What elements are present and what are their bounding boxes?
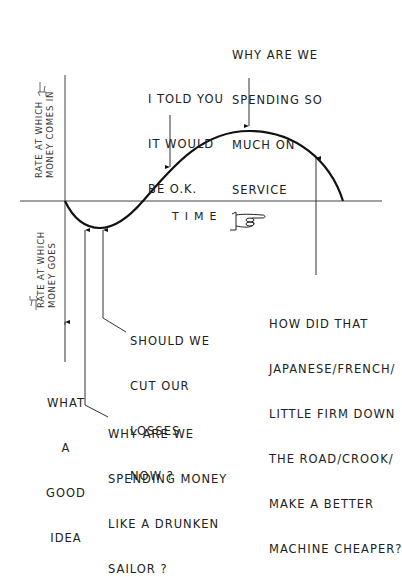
text-line: LIKE A DRUNKEN <box>108 517 227 532</box>
text-line: SPENDING SO <box>232 93 323 108</box>
text-line: JAPANESE/FRENCH/ <box>269 362 402 377</box>
text-line: A <box>44 441 88 456</box>
label-line: RATE AT WHICH <box>36 231 47 308</box>
label-line: MONEY GOES <box>47 231 58 308</box>
text-line: SPENDING MONEY <box>108 472 227 487</box>
text-line: IT WOULD <box>148 137 224 152</box>
annotation-good-idea: WHAT A GOOD IDEA <box>44 366 88 561</box>
label-line: MONEY COMES IN <box>45 91 56 178</box>
text-line: CUT OUR <box>130 379 210 394</box>
text-line: HOW DID THAT <box>269 317 402 332</box>
text-line: MUCH ON <box>232 138 323 153</box>
annotation-told-you: I TOLD YOU IT WOULD BE O.K. <box>148 62 224 212</box>
text-line: I TOLD YOU <box>148 92 224 107</box>
text-line: MACHINE CHEAPER? <box>269 542 402 557</box>
text-line: BE O.K. <box>148 182 224 197</box>
text-line: SAILOR ? <box>108 562 227 577</box>
pointing-hand-icon <box>230 212 265 230</box>
annotation-drunken-sailor: WHY ARE WE SPENDING MONEY LIKE A DRUNKEN… <box>108 397 227 577</box>
y-axis-positive-label: RATE AT WHICH MONEY COMES IN <box>34 91 56 178</box>
drunken-sailor-arrow <box>85 230 108 417</box>
text-line: WHY ARE WE <box>108 427 227 442</box>
annotation-competitor: HOW DID THAT JAPANESE/FRENCH/ LITTLE FIR… <box>269 287 402 572</box>
annotation-service: WHY ARE WE SPENDING SO MUCH ON SERVICE <box>232 18 323 213</box>
label-line: RATE AT WHICH <box>34 91 45 178</box>
text-line: LITTLE FIRM DOWN <box>269 407 402 422</box>
text-line: IDEA <box>44 531 88 546</box>
y-axis-negative-label: RATE AT WHICH MONEY GOES <box>36 231 58 308</box>
text-line: WHY ARE WE <box>232 48 323 63</box>
text-line: WHAT <box>44 396 88 411</box>
text-line: MAKE A BETTER <box>269 497 402 512</box>
text-line: THE ROAD/CROOK/ <box>269 452 402 467</box>
text-line: SERVICE <box>232 183 323 198</box>
text-line: SHOULD WE <box>130 334 210 349</box>
cut-losses-arrow <box>103 230 126 332</box>
text-line: GOOD <box>44 486 88 501</box>
